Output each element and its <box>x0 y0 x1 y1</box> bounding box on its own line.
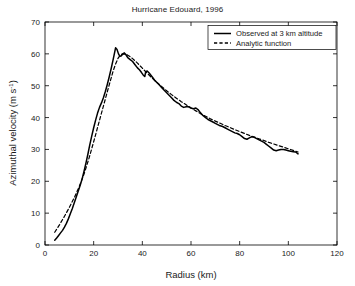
x-tick-label: 0 <box>43 249 48 258</box>
x-axis-title: Radius (km) <box>165 269 216 280</box>
x-tick-label: 100 <box>282 249 296 258</box>
y-tick-label: 20 <box>31 177 40 186</box>
svg-text:Azimuthal velocity (m s-1): Azimuthal velocity (m s-1) <box>7 80 18 186</box>
y-tick-label: 0 <box>36 241 41 250</box>
series-line-analytic <box>55 54 298 232</box>
y-tick-label: 30 <box>31 145 40 154</box>
legend-label-observed: Observed at 3 km altitude <box>236 29 323 38</box>
x-axis-ticks: 020406080100120 <box>43 22 344 258</box>
x-tick-label: 60 <box>187 249 196 258</box>
y-axis-title: Azimuthal velocity (m s-1) <box>7 80 18 186</box>
y-tick-label: 60 <box>31 50 40 59</box>
y-tick-label: 40 <box>31 114 40 123</box>
y-tick-label: 70 <box>31 18 40 27</box>
y-axis-title-tail: ) <box>7 80 18 83</box>
y-tick-label: 50 <box>31 82 40 91</box>
x-tick-label: 40 <box>138 249 147 258</box>
data-series-group <box>55 48 298 240</box>
y-tick-label: 10 <box>31 209 40 218</box>
y-axis-ticks: 010203040506070 <box>31 18 337 250</box>
axes-frame <box>45 22 337 245</box>
x-tick-label: 120 <box>330 249 344 258</box>
chart-canvas: 020406080100120 010203040506070 Radius (… <box>0 0 355 286</box>
legend-label-analytic: Analytic function <box>236 39 291 48</box>
figure-container: Hurricane Edouard, 1996 020406080100120 … <box>0 0 355 286</box>
legend[interactable]: Observed at 3 km altitude Analytic funct… <box>208 26 336 50</box>
x-tick-label: 80 <box>235 249 244 258</box>
series-line-observed <box>55 48 298 240</box>
y-axis-title-base: Azimuthal velocity (m s <box>7 88 18 185</box>
x-tick-label: 20 <box>89 249 98 258</box>
